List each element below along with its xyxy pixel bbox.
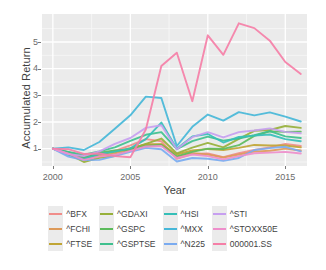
plot-panel [42, 14, 307, 166]
legend-label: ^FTSE [66, 239, 92, 249]
y-tick-label: 5 [24, 38, 38, 47]
plot-lines [42, 14, 307, 166]
x-tick-label: 2015 [265, 172, 305, 182]
legend-item[interactable]: ^FCHI [48, 221, 92, 236]
x-tick-label: 2000 [33, 172, 73, 182]
legend-color-swatch [48, 221, 63, 236]
x-tick-mark [285, 166, 286, 169]
legend-color-swatch [212, 221, 227, 236]
legend-item[interactable]: ^BFX [48, 206, 92, 221]
legend-color-swatch [99, 221, 114, 236]
x-tick-mark [208, 166, 209, 169]
legend-color-swatch [163, 221, 178, 236]
y-tick-label: 3 [24, 91, 38, 100]
legend-color-swatch [212, 206, 227, 221]
legend-item[interactable]: ^GSPTSE [99, 236, 155, 251]
legend-item[interactable]: ^STOXX50E [212, 221, 278, 236]
y-tick-mark [38, 42, 41, 43]
legend-label: ^MXX [181, 224, 203, 234]
legend-label: ^STOXX50E [230, 224, 278, 234]
legend-item[interactable]: ^MXX [163, 221, 205, 236]
chart-figure: Accumulated Return 12345 200020052010201… [0, 0, 326, 270]
legend-color-swatch [48, 206, 63, 221]
y-tick-mark [38, 69, 41, 70]
y-tick-label: 4 [24, 64, 38, 73]
legend-label: 000001.SS [230, 239, 272, 249]
y-tick-mark [38, 95, 41, 96]
legend-color-swatch [99, 236, 114, 251]
legend-label: ^GDAXI [117, 209, 147, 219]
legend-label: ^N225 [181, 239, 205, 249]
x-tick-label: 2010 [188, 172, 228, 182]
x-tick-mark [53, 166, 54, 169]
x-tick-mark [130, 166, 131, 169]
x-axis-title: Year [42, 184, 307, 196]
y-tick-mark [38, 149, 41, 150]
legend-item[interactable]: ^GSPC [99, 221, 155, 236]
legend-item[interactable]: ^HSI [163, 206, 205, 221]
legend-grid: ^BFX^FCHI^FTSE^GDAXI^GSPC^GSPTSE^HSI^MXX… [48, 206, 277, 251]
y-tick-mark [38, 122, 41, 123]
legend-label: ^GSPTSE [117, 239, 155, 249]
legend-item[interactable]: 000001.SS [212, 236, 278, 251]
legend-color-swatch [163, 236, 178, 251]
legend-label: ^FCHI [66, 224, 90, 234]
legend-color-swatch [163, 206, 178, 221]
legend-color-swatch [99, 206, 114, 221]
legend-label: ^BFX [66, 209, 87, 219]
chart-legend: ^BFX^FCHI^FTSE^GDAXI^GSPC^GSPTSE^HSI^MXX… [0, 206, 326, 251]
legend-item[interactable]: ^N225 [163, 236, 205, 251]
legend-label: ^GSPC [117, 224, 145, 234]
y-tick-label: 1 [24, 144, 38, 153]
x-tick-label: 2005 [110, 172, 150, 182]
legend-item[interactable]: ^FTSE [48, 236, 92, 251]
legend-item[interactable]: ^STI [212, 206, 278, 221]
legend-label: ^HSI [181, 209, 199, 219]
legend-color-swatch [48, 236, 63, 251]
y-tick-label: 2 [24, 118, 38, 127]
legend-color-swatch [212, 236, 227, 251]
legend-item[interactable]: ^GDAXI [99, 206, 155, 221]
legend-label: ^STI [230, 209, 247, 219]
